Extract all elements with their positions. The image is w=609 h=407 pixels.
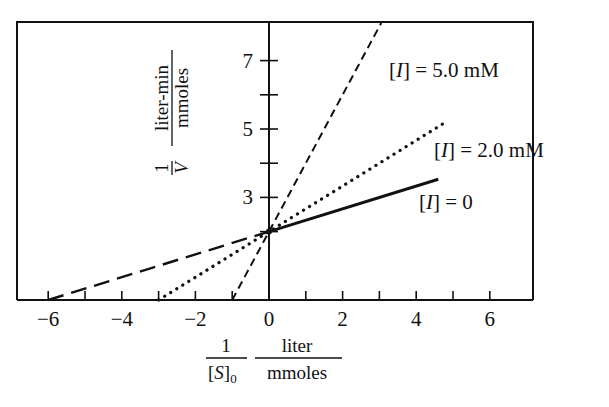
x-label-unit-den: mmoles	[267, 362, 327, 383]
series-labels: [I] = 5.0 mM [I] = 2.0 mM [I] = 0	[389, 58, 544, 214]
x-tick-label: −2	[184, 307, 206, 331]
x-label-unit-num: liter	[282, 335, 313, 356]
label-I0: [I] = 0	[419, 190, 473, 214]
x-axis-label: 1 [S]0 liter mmoles	[206, 335, 342, 386]
y-label-den: V	[171, 160, 192, 174]
intercept-point	[266, 229, 272, 235]
series-I0-extrapolation	[48, 232, 269, 300]
series-I2-line	[159, 122, 446, 300]
label-I2: [I] = 2.0 mM	[434, 138, 544, 162]
x-tick-label: −4	[111, 307, 134, 331]
y-tick-label: 7	[243, 49, 254, 73]
y-label-num: 1	[151, 163, 172, 173]
x-tick-label: 0	[264, 307, 275, 331]
y-axis-label: 1 V liter-min mmoles	[151, 50, 192, 175]
series-I0-line	[269, 179, 438, 231]
lineweaver-burk-chart: −6−4−20246357 [I] = 5.0 mM [I] = 2.0 mM …	[0, 0, 609, 407]
y-tick-label: 5	[243, 117, 254, 141]
x-tick-label: 2	[337, 307, 348, 331]
x-tick-label: 4	[411, 307, 422, 331]
y-label-unit-num: liter-min	[151, 64, 172, 131]
x-label-num: 1	[221, 335, 231, 356]
x-tick-label: −6	[37, 307, 59, 331]
x-tick-label: 6	[485, 307, 496, 331]
x-label-den: [S]0	[208, 362, 237, 386]
y-label-unit-den: mmoles	[171, 68, 192, 128]
series-I5-line	[232, 23, 381, 300]
y-tick-label: 3	[243, 185, 254, 209]
label-I5: [I] = 5.0 mM	[389, 58, 499, 82]
